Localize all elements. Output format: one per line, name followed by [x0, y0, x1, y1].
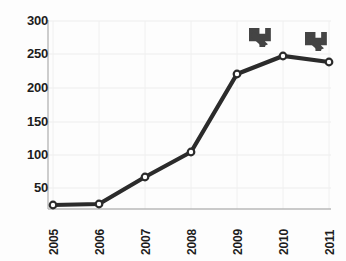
x-tick-label: 2008 — [186, 229, 198, 255]
x-tick-label: 2007 — [140, 229, 152, 255]
x-tick-label: 2005 — [48, 229, 60, 255]
arrow-down-right-icon — [305, 32, 327, 51]
y-tick-label: 300 — [4, 14, 48, 27]
data-point — [326, 59, 333, 66]
x-tick-label: 2006 — [94, 229, 106, 255]
x-tick-label: 2011 — [324, 230, 336, 255]
arrow-down-right-icon — [249, 28, 271, 47]
x-tick-label: 2010 — [278, 229, 290, 255]
gridlines-horizontal — [48, 21, 331, 188]
line-chart: 300 250 200 150 100 50 2005 2006 2007 20… — [0, 0, 346, 261]
x-tick-label: 2009 — [232, 229, 244, 255]
data-point — [234, 71, 241, 78]
data-point — [96, 201, 103, 208]
y-tick-label: 150 — [4, 115, 48, 128]
y-tick-label: 200 — [4, 81, 48, 94]
y-tick-label: 50 — [4, 181, 48, 194]
gridlines-vertical — [53, 21, 329, 209]
y-tick-label: 250 — [4, 47, 48, 60]
data-point — [280, 53, 287, 60]
data-point — [142, 174, 149, 181]
chart-canvas — [0, 0, 346, 261]
data-point — [50, 202, 57, 209]
data-point — [188, 149, 195, 156]
y-tick-label: 100 — [4, 148, 48, 161]
